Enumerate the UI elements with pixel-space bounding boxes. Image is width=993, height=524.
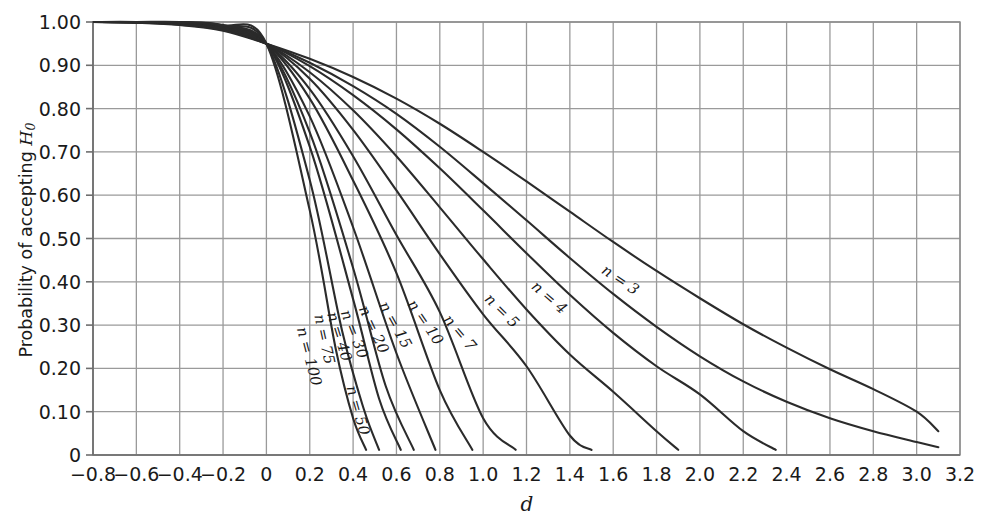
x-axis-title: d (521, 492, 534, 516)
y-tick-label: 0.80 (39, 98, 81, 120)
y-tick-label: 1.00 (39, 11, 81, 33)
y-axis-title-subscript: 0 (23, 122, 38, 130)
grid-layer (93, 22, 960, 455)
x-tick-label: 2.8 (858, 463, 888, 485)
y-axis-title-symbol: H (16, 130, 36, 147)
curves-layer (93, 22, 938, 450)
x-tick-label: 2.0 (685, 463, 715, 485)
y-tick-label: 0.20 (39, 357, 81, 379)
x-tick-label: 0.4 (338, 463, 368, 485)
oc-curve (93, 22, 938, 447)
y-axis-title-text: Probability of accepting (16, 146, 36, 358)
y-tick-label: 0.60 (39, 184, 81, 206)
curve-label: n = 4 (528, 277, 571, 318)
y-tick-label: 0.70 (39, 141, 81, 163)
x-tick-label: 1.6 (598, 463, 628, 485)
x-tick-label: 2.2 (728, 463, 758, 485)
x-tick-label: −0.6 (113, 463, 159, 485)
x-tick-label: 0.8 (425, 463, 455, 485)
oc-curve (93, 22, 776, 450)
x-tick-label: −0.2 (200, 463, 246, 485)
y-tick-label: 0.30 (39, 314, 81, 336)
y-axis-title: Probability of accepting H0 (16, 122, 38, 357)
y-tick-label: 0.90 (39, 54, 81, 76)
x-tick-label: 3.0 (902, 463, 932, 485)
x-tick-label: 1.2 (511, 463, 541, 485)
oc-curve (93, 22, 938, 431)
oc-curve (93, 22, 435, 450)
x-tick-label: −0.4 (157, 463, 203, 485)
x-tick-label: 3.2 (945, 463, 975, 485)
curve-label: n = 50 (342, 383, 373, 437)
x-tick-label: 0 (260, 463, 272, 485)
oc-curve-figure: n = 3n = 4n = 5n = 7n = 10n = 15n = 20n … (0, 0, 993, 524)
curve-label: n = 7 (440, 311, 481, 355)
y-axis-tick-labels: 1.000.900.800.700.600.500.400.300.200.10… (39, 11, 93, 466)
x-tick-label: 1.0 (468, 463, 498, 485)
x-tick-label: 1.4 (555, 463, 585, 485)
oc-curve (93, 22, 592, 450)
x-tick-label: 2.6 (815, 463, 845, 485)
oc-curve (93, 22, 516, 450)
svg-text:Probability of accepting H0: Probability of accepting H0 (16, 122, 38, 357)
x-tick-label: 0.2 (295, 463, 325, 485)
x-tick-label: −0.8 (70, 463, 116, 485)
y-tick-label: 0.50 (39, 228, 81, 250)
x-tick-label: 2.4 (771, 463, 801, 485)
x-axis-tick-labels: −0.8−0.6−0.4−0.200.20.40.60.81.01.21.41.… (70, 463, 975, 485)
x-tick-label: 0.6 (381, 463, 411, 485)
oc-curve (93, 22, 414, 450)
x-tick-label: 1.8 (641, 463, 671, 485)
y-tick-label: 0.10 (39, 401, 81, 423)
y-tick-label: 0.40 (39, 271, 81, 293)
chart-canvas: n = 3n = 4n = 5n = 7n = 10n = 15n = 20n … (0, 0, 993, 524)
curve-label: n = 3 (598, 261, 642, 299)
